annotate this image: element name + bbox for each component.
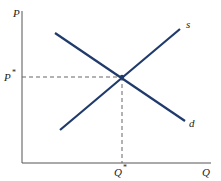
equilibrium-price-label: P: [3, 71, 11, 83]
supply-label: s: [186, 18, 190, 30]
y-axis-label: P: [12, 7, 20, 19]
demand-label: d: [189, 117, 195, 129]
equilibrium-price-star: *: [12, 68, 16, 77]
x-axis-label: Q: [202, 166, 210, 178]
supply-curve: [60, 29, 180, 130]
equilibrium-point: [120, 75, 124, 79]
equilibrium-quantity-label: Q: [114, 166, 122, 178]
supply-demand-diagram: P Q P * Q * s d: [0, 0, 221, 181]
equilibrium-quantity-star: *: [123, 163, 127, 172]
